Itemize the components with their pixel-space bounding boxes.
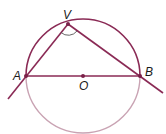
point-b (138, 74, 142, 78)
point-a (24, 74, 28, 78)
circle-upper-arc (26, 19, 140, 76)
label-v: V (63, 8, 72, 22)
angle-mark-v (61, 31, 77, 35)
geometry-diagram: V A B O (0, 0, 166, 134)
line-va (8, 24, 68, 99)
label-b: B (145, 65, 153, 79)
label-a: A (12, 69, 21, 83)
label-o: O (79, 79, 88, 93)
point-o (81, 74, 85, 78)
point-v (66, 22, 70, 26)
